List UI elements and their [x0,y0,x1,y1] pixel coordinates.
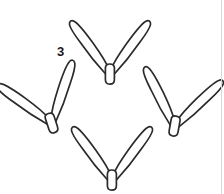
figure-number-label: 3 [57,45,64,58]
figure-illustration: 3 [0,0,224,194]
track-bottom [71,127,152,191]
right-border-rule [221,0,222,194]
track-top [69,21,150,85]
bird-track-drawing [0,0,224,194]
